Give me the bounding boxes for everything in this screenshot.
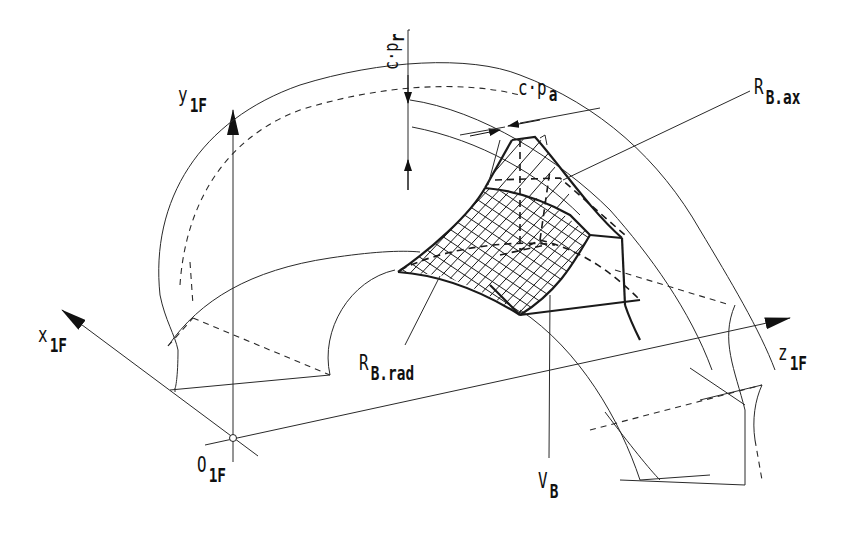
dimension-c-pr [408,30,410,190]
c-pa-label: c·pa [518,75,557,100]
r-b-ax-label: RB.ax [754,74,800,99]
z-axis-label: z1F [778,340,807,365]
x-axis-label: x1F [38,322,67,347]
coordinate-axes [62,110,790,462]
leader-r-b-rad [405,276,440,345]
origin-label: O1F [197,452,226,477]
dimension-c-pa [460,108,600,136]
c-pr-label: c·pr [380,33,402,70]
line-drawing [0,0,847,547]
x-axis [62,310,258,456]
leader-r-b-ax [563,91,750,180]
leader-lines [405,91,750,458]
leader-v-b [549,295,550,458]
v-b-label: VB [538,468,558,493]
diagram-canvas: y1F x1F z1F O1F RB.ax RB.rad VB c·pa c·p… [0,0,847,547]
mesh-hatch [340,28,640,504]
r-b-rad-label: RB.rad [359,350,414,375]
tooth-outline [159,63,775,485]
y-axis-label: y1F [178,82,207,107]
z-axis [205,318,790,445]
origin-point [230,435,237,442]
bearing-region [340,28,640,504]
